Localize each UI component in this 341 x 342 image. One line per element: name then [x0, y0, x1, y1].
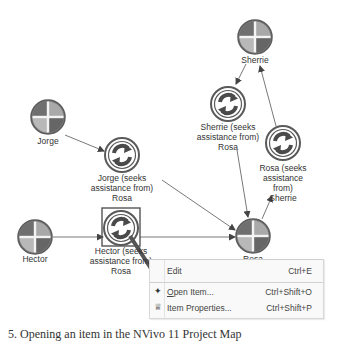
menu-item-edit[interactable]: Edit Ctrl+E [150, 262, 323, 280]
figure-caption: 5. Opening an item in the NVivo 11 Proje… [8, 327, 241, 342]
node-label-sherrie: Sherrie [241, 55, 268, 65]
case-icon [236, 219, 270, 253]
node-hector[interactable] [18, 220, 52, 254]
relationship-icon [266, 126, 300, 160]
edge-sherrie-to-sherrie-seeks[interactable] [236, 64, 246, 84]
item-properties-icon: ♕ [152, 302, 163, 313]
node-sherrie[interactable] [238, 20, 272, 54]
menu-item-label: Edit [167, 266, 182, 276]
node-jorge[interactable] [31, 100, 65, 134]
node-sherrie-seeks-rosa[interactable] [211, 87, 245, 121]
case-icon [238, 20, 272, 54]
menu-item-label: Item Properties... [167, 303, 232, 313]
relationship-icon [211, 87, 245, 121]
node-label-hector-seeks-rosa: Hector (seeks assistance from) Rosa [90, 246, 152, 276]
menu-item-label: Open Item... [167, 287, 214, 297]
node-rosa-seeks-sherrie[interactable] [266, 126, 300, 160]
menu-item-shortcut: Ctrl+Shift+O [265, 287, 312, 297]
edge-jorge-seeks-to-rosa[interactable] [162, 180, 235, 230]
menu-item-shortcut: Ctrl+Shift+P [266, 303, 312, 313]
menu-item-item-properties[interactable]: ♕ Item Properties... Ctrl+Shift+P [150, 299, 323, 317]
edge-jorge-to-jorge-seeks[interactable] [65, 135, 104, 151]
edge-sherrie-seeks-to-rosa[interactable] [237, 150, 248, 217]
node-label-jorge-seeks-rosa: Jorge (seeks assistance from) Rosa [91, 173, 153, 203]
menu-item-shortcut: Ctrl+E [288, 266, 312, 276]
open-item-icon: ✦ [152, 286, 163, 297]
context-menu: Edit Ctrl+E ✦ Open Item... Ctrl+Shift+O … [149, 259, 324, 319]
relationship-icon [105, 138, 139, 172]
node-rosa[interactable] [236, 219, 270, 253]
node-label-rosa-seeks-sherrie: Rosa (seeks assistance from) Sherrie [254, 163, 312, 203]
case-icon [18, 220, 52, 254]
node-jorge-seeks-rosa[interactable] [105, 138, 139, 172]
node-label-hector: Hector [22, 254, 47, 264]
node-label-jorge: Jorge [37, 136, 58, 146]
case-icon [31, 100, 65, 134]
node-label-sherrie-seeks-rosa: Sherrie (seeks assistance from) Rosa [197, 122, 259, 152]
edge-rosa-seeks-to-sherrie[interactable] [260, 66, 276, 126]
